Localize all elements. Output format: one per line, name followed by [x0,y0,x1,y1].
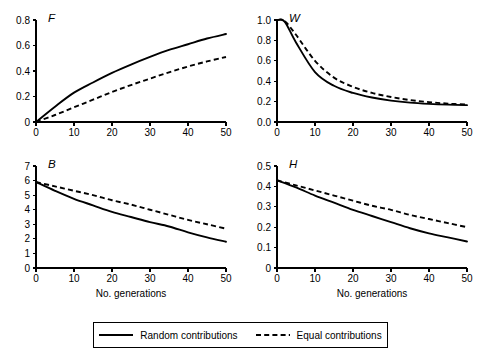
series-equal [277,20,467,105]
ytick-label: 0.1 [257,242,271,253]
xtick-label: 30 [144,273,156,284]
series-equal [277,180,467,227]
xtick-label: 30 [144,127,156,138]
legend: Random contributions Equal contributions [93,322,388,348]
ytick-label: 0 [265,263,271,274]
panel-H: 00.10.20.30.40.501020304050HNo. generati… [243,150,475,302]
series-random [36,34,226,122]
series-random [36,182,226,242]
legend-label-equal: Equal contributions [297,330,382,341]
solid-line-swatch [99,331,133,339]
ytick-label: 7 [24,161,30,172]
ytick-label: 0 [24,117,30,128]
panel-B: 0123456701020304050BNo. generations [2,150,234,302]
figure-root: 00.20.40.60.801020304050F 0.00.20.40.60.… [0,0,479,356]
ytick-label: 6 [24,175,30,186]
x-axis-title: No. generations [337,288,408,299]
ytick-label: 0.6 [16,40,30,51]
ytick-label: 0.6 [257,55,271,66]
xtick-label: 40 [423,127,435,138]
series-equal [36,57,226,122]
ytick-label: 0.2 [257,96,271,107]
ytick-label: 1.0 [257,15,271,26]
xtick-label: 50 [220,273,232,284]
ytick-label: 0.4 [16,66,30,77]
xtick-label: 50 [461,273,473,284]
ytick-label: 0.4 [257,181,271,192]
panel-W: 0.00.20.40.60.81.001020304050W [243,4,475,144]
panel-letter: W [289,12,301,24]
ytick-label: 0.0 [257,117,271,128]
xtick-label: 0 [274,127,280,138]
panel-F: 00.20.40.60.801020304050F [2,4,234,144]
xtick-label: 20 [106,273,118,284]
ytick-label: 2 [24,233,30,244]
ytick-label: 0.2 [16,91,30,102]
ytick-label: 0.2 [257,222,271,233]
xtick-label: 10 [309,127,321,138]
xtick-label: 50 [220,127,232,138]
xtick-label: 20 [347,127,359,138]
xtick-label: 10 [68,273,80,284]
xtick-label: 0 [274,273,280,284]
xtick-label: 0 [33,273,39,284]
plot-B: 0123456701020304050BNo. generations [2,150,234,302]
series-random [277,180,467,241]
xtick-label: 10 [309,273,321,284]
ytick-label: 0.8 [16,15,30,26]
ytick-label: 0.3 [257,201,271,212]
series-equal [36,182,226,229]
xtick-label: 20 [106,127,118,138]
ytick-label: 1 [24,248,30,259]
plot-H: 00.10.20.30.40.501020304050HNo. generati… [243,150,475,302]
ytick-label: 5 [24,190,30,201]
dashed-line-swatch [256,331,290,339]
xtick-label: 20 [347,273,359,284]
legend-entry-random: Random contributions [99,330,237,341]
panel-letter: H [289,158,298,170]
ytick-label: 0 [24,263,30,274]
panel-letter: F [48,12,56,24]
x-axis-title: No. generations [96,288,167,299]
xtick-label: 40 [182,273,194,284]
ytick-label: 0.8 [257,35,271,46]
xtick-label: 50 [461,127,473,138]
ytick-label: 0.4 [257,76,271,87]
panel-letter: B [48,158,56,170]
legend-entry-equal: Equal contributions [256,330,382,341]
xtick-label: 30 [385,273,397,284]
xtick-label: 10 [68,127,80,138]
xtick-label: 40 [182,127,194,138]
plot-F: 00.20.40.60.801020304050F [2,4,234,144]
xtick-label: 30 [385,127,397,138]
legend-label-random: Random contributions [140,330,237,341]
ytick-label: 3 [24,219,30,230]
plot-W: 0.00.20.40.60.81.001020304050W [243,4,475,144]
xtick-label: 0 [33,127,39,138]
ytick-label: 4 [24,204,30,215]
xtick-label: 40 [423,273,435,284]
ytick-label: 0.5 [257,161,271,172]
